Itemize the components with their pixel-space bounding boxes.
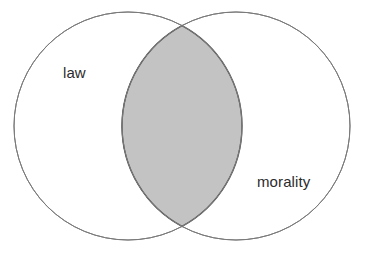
set-label-morality: morality — [257, 174, 310, 189]
venn-diagram-figure: law morality — [0, 0, 367, 253]
venn-diagram-canvas — [0, 0, 367, 253]
set-label-law: law — [63, 65, 86, 80]
